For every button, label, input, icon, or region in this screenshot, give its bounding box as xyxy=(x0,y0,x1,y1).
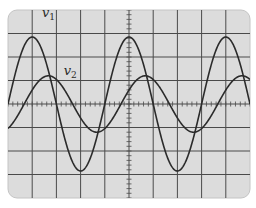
oscilloscope-chart: v1 v2 xyxy=(0,0,256,208)
label-v1: v1 xyxy=(42,5,55,22)
